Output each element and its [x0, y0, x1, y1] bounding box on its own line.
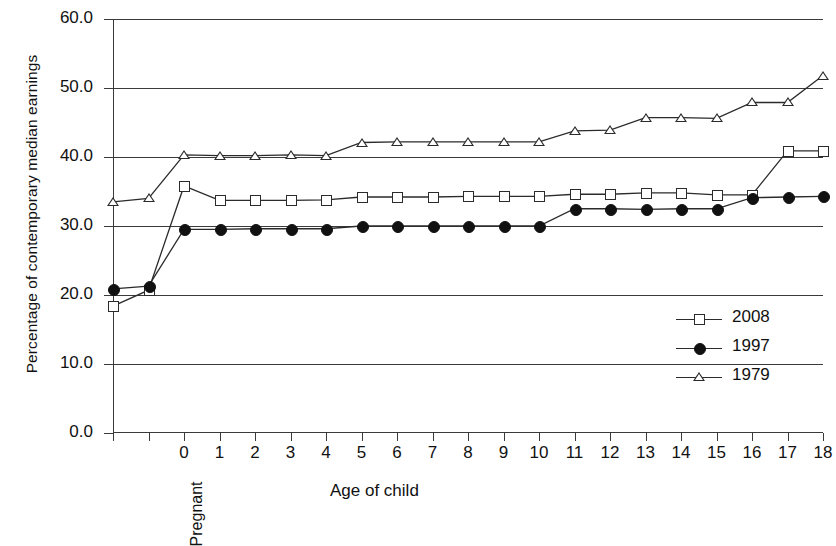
x-tick-label: 3 [271, 443, 311, 463]
y-tick-mark [104, 226, 113, 227]
legend-label: 2008 [732, 307, 770, 327]
open-triangle-marker [356, 138, 368, 147]
x-tick-label: 13 [626, 443, 666, 463]
x-tick-label: 6 [377, 443, 417, 463]
x-tick-label: 15 [697, 443, 737, 463]
x-tick-mark [681, 433, 682, 441]
open-square-marker [534, 191, 545, 202]
x-axis-title: Age of child [330, 481, 419, 501]
filled-circle-marker [534, 221, 546, 233]
y-tick-mark [104, 364, 113, 365]
x-tick-label: 9 [484, 443, 524, 463]
filled-circle-marker [818, 191, 830, 203]
filled-circle-marker [144, 281, 156, 293]
x-tick-label: 8 [448, 443, 488, 463]
y-tick-label: 10.0 [21, 353, 93, 373]
x-tick-label: 18 [803, 443, 836, 463]
open-triangle-marker [746, 97, 758, 106]
x-tick-mark [433, 433, 434, 441]
y-tick-mark [104, 433, 113, 434]
x-tick-label: 16 [732, 443, 772, 463]
x-tick-mark [149, 433, 150, 441]
open-square-marker [321, 195, 332, 206]
filled-circle-marker [321, 224, 333, 236]
y-tick-label: 0.0 [21, 422, 93, 442]
x-tick-mark [255, 433, 256, 441]
y-tick-mark [104, 88, 113, 89]
open-square-marker [357, 192, 368, 203]
x-tick-mark [220, 433, 221, 441]
filled-circle-marker [499, 221, 511, 233]
x-tick-label: 12 [590, 443, 630, 463]
open-triangle-marker [249, 151, 261, 160]
open-square-marker [286, 195, 297, 206]
open-square-marker [605, 189, 616, 200]
filled-circle-marker [570, 204, 582, 216]
x-tick-mark [539, 433, 540, 441]
x-tick-mark [717, 433, 718, 441]
open-triangle-marker [107, 197, 119, 206]
x-tick-label: 2 [235, 443, 275, 463]
open-triangle-marker [320, 151, 332, 160]
x-tick-label: 4 [306, 443, 346, 463]
x-tick-mark [788, 433, 789, 441]
x-tick-label: Pregnant [188, 481, 206, 546]
open-triangle-marker [817, 71, 829, 80]
open-triangle-marker [143, 193, 155, 202]
open-triangle-marker [285, 150, 297, 159]
open-square-marker [499, 191, 510, 202]
filled-circle-marker [676, 204, 688, 216]
filled-circle-marker [747, 193, 759, 205]
x-tick-label: 7 [413, 443, 453, 463]
open-square-marker [570, 189, 581, 200]
x-tick-mark [468, 433, 469, 441]
open-square-marker [641, 188, 652, 199]
filled-circle-marker [605, 204, 617, 216]
open-triangle-marker [462, 137, 474, 146]
y-tick-label: 20.0 [21, 284, 93, 304]
open-triangle-marker [498, 137, 510, 146]
x-tick-label: 14 [661, 443, 701, 463]
y-tick-label: 40.0 [21, 146, 93, 166]
x-tick-label: 0 [164, 443, 204, 463]
open-square-marker [818, 146, 829, 157]
x-tick-mark [752, 433, 753, 441]
open-square-marker [676, 188, 687, 199]
filled-circle-marker [357, 221, 369, 233]
x-tick-label: 17 [768, 443, 808, 463]
open-triangle-marker [214, 151, 226, 160]
y-tick-label: 30.0 [21, 215, 93, 235]
y-tick-label: 60.0 [21, 8, 93, 28]
x-tick-mark [504, 433, 505, 441]
filled-circle-marker [712, 204, 724, 216]
x-tick-mark [646, 433, 647, 441]
filled-circle-marker [463, 221, 475, 233]
x-tick-mark [397, 433, 398, 441]
filled-circle-marker [694, 343, 706, 355]
x-tick-mark [610, 433, 611, 441]
plot-area: 0.010.020.030.040.050.060.0 Pregnant0123… [113, 19, 823, 433]
x-tick-mark [575, 433, 576, 441]
legend-label: 1979 [732, 365, 770, 385]
y-tick-mark [104, 157, 113, 158]
open-triangle-marker [640, 113, 652, 122]
y-tick-label: 50.0 [21, 77, 93, 97]
open-square-marker [694, 314, 705, 325]
x-tick-mark [823, 433, 824, 441]
x-tick-mark [326, 433, 327, 441]
x-tick-mark [362, 433, 363, 441]
x-tick-label: 10 [519, 443, 559, 463]
open-square-marker [392, 192, 403, 203]
filled-circle-marker [428, 221, 440, 233]
filled-circle-marker [286, 224, 298, 236]
filled-circle-marker [641, 204, 653, 216]
filled-circle-marker [250, 224, 262, 236]
x-tick-label: 5 [342, 443, 382, 463]
open-triangle-marker [675, 113, 687, 122]
x-tick-mark [113, 433, 114, 441]
open-square-marker [179, 181, 190, 192]
filled-circle-marker [108, 284, 120, 296]
open-triangle-marker [391, 137, 403, 146]
open-square-marker [783, 146, 794, 157]
